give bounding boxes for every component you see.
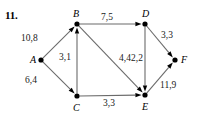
edge-weight-b-d: 7,5 (101, 12, 113, 22)
edge-weight-c-e: 3,3 (103, 98, 115, 108)
arrow-head-icon-c-e (135, 93, 141, 97)
node-label-e: E (142, 101, 148, 112)
node-dot-f (172, 57, 177, 62)
problem-figure: 11. ABCDEF 10,86,43,17,54,43,32,23,311,9 (0, 0, 197, 118)
edge-line-a-c (43, 62, 70, 89)
edge-line-c-e (80, 95, 136, 96)
node-dot-e (142, 92, 147, 97)
node-label-a: A (30, 54, 36, 65)
node-label-c: C (73, 102, 80, 113)
node-dot-a (38, 57, 43, 62)
arrow-head-icon-d-e (143, 85, 147, 91)
edge-weight-c-b: 3,1 (59, 52, 71, 62)
arrow-head-icon-c-b (75, 27, 79, 33)
node-label-f: F (181, 54, 187, 65)
node-dot-b (74, 21, 79, 26)
node-label-b: B (73, 8, 79, 19)
arrow-head-icon-b-d (135, 22, 141, 26)
node-label-d: D (142, 8, 149, 19)
edge-weight-a-b: 10,8 (21, 33, 38, 43)
node-dot-c (74, 93, 79, 98)
node-dot-d (142, 21, 147, 26)
edge-weight-a-c: 6,4 (25, 75, 37, 85)
edge-weight-d-f: 3,3 (161, 30, 173, 40)
edge-weight-d-e: 2,2 (131, 53, 143, 63)
edge-weight-e-f: 11,9 (160, 80, 176, 90)
edge-weight-b-e: 4,4 (119, 53, 131, 63)
